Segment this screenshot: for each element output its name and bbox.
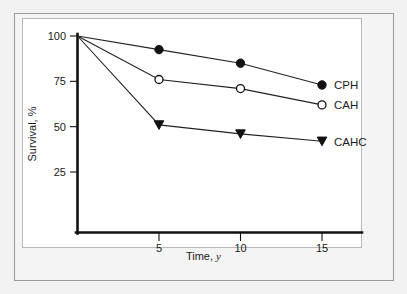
figure-root: 255075100 51015 Survival, % Time, y CPHC… xyxy=(0,0,407,294)
series-cah xyxy=(78,36,327,109)
series-cph xyxy=(78,36,327,89)
chart-legend: CPHCAHCAHC xyxy=(334,79,367,147)
x-tick-label: 15 xyxy=(316,242,328,254)
y-tick-label: 50 xyxy=(54,121,66,133)
series-cahc xyxy=(78,36,327,146)
y-tick-label: 100 xyxy=(48,30,66,42)
legend-item-cahc: CAHC xyxy=(334,136,367,148)
data-point-marker xyxy=(318,81,326,89)
series-line xyxy=(78,36,323,85)
x-tick-label: 5 xyxy=(156,242,162,254)
axes-group xyxy=(76,34,362,234)
series-line xyxy=(78,36,323,105)
data-point-marker xyxy=(236,59,244,67)
legend-item-cah: CAH xyxy=(334,99,358,111)
x-tick-label: 10 xyxy=(234,242,246,254)
data-point-marker xyxy=(237,85,245,93)
x-axis-title: Time, xyxy=(186,250,213,262)
series-layer xyxy=(78,36,327,146)
y-tick-label: 25 xyxy=(54,166,66,178)
y-axis-ticks: 255075100 xyxy=(48,30,77,178)
series-line xyxy=(78,36,323,141)
data-point-marker xyxy=(155,76,163,84)
data-point-marker xyxy=(155,45,163,53)
data-point-marker xyxy=(318,101,326,109)
legend-label: CPH xyxy=(334,79,358,91)
x-axis-title-variable: y xyxy=(215,250,221,262)
y-tick-label: 75 xyxy=(54,75,66,87)
legend-item-cph: CPH xyxy=(334,79,358,91)
legend-label: CAHC xyxy=(334,136,367,148)
legend-label: CAH xyxy=(334,99,358,111)
survival-line-chart: 255075100 51015 Survival, % Time, y CPHC… xyxy=(0,0,407,294)
x-axis-ticks: 51015 xyxy=(156,233,328,254)
y-axis-title: Survival, % xyxy=(26,106,38,161)
